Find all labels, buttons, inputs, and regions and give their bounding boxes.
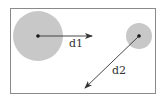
- arrow-d2: [85, 36, 139, 88]
- label-d2: d2: [112, 64, 126, 77]
- distance-diagram: d1 d2: [0, 0, 163, 99]
- label-d1: d1: [69, 37, 83, 50]
